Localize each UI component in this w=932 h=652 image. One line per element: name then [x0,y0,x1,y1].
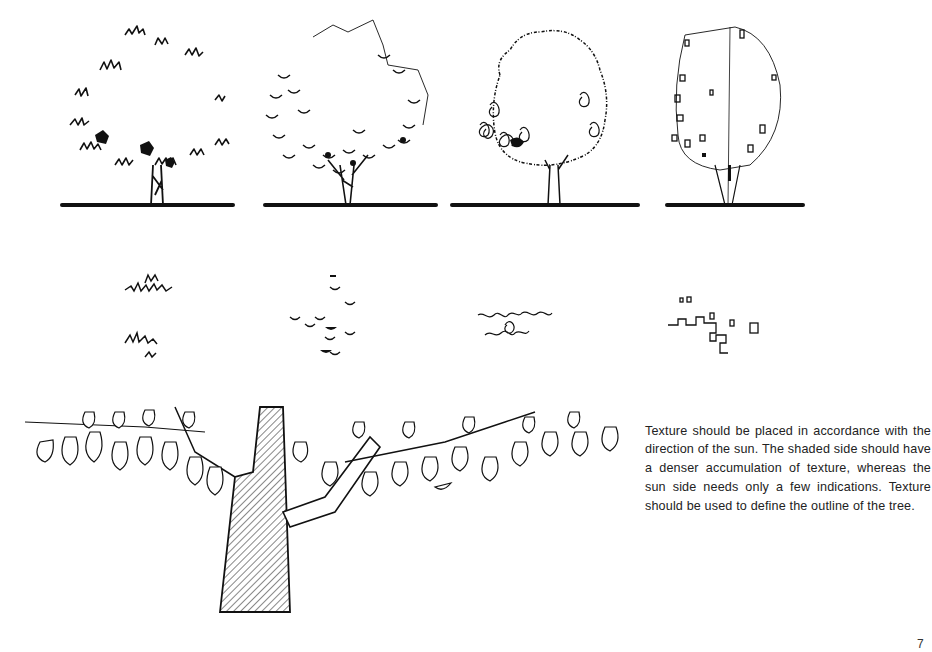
caption-paragraph: Texture should be placed in accordance w… [645,422,931,516]
page-number: 7 [917,637,924,651]
tree-illustration-spiky [55,15,245,215]
tree-trunk-detail-illustration [25,402,635,617]
tree-illustration-halfmoon [258,15,448,215]
texture-swatch-squiggle [475,305,575,355]
texture-swatch-blocks [665,295,775,365]
tree-illustration-blocks [640,15,820,215]
texture-swatch-halfmoon [285,272,365,367]
texture-swatch-spiky [120,265,200,370]
tree-illustration-squiggle [450,15,640,215]
